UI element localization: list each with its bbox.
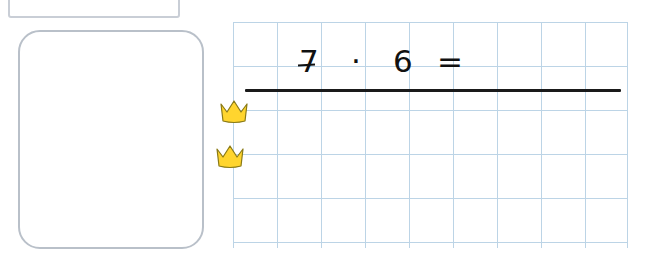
grid-line-horizontal — [233, 22, 628, 23]
grid-line-vertical — [233, 22, 234, 248]
equals-sign: = — [437, 46, 463, 77]
math-problem: 7 · 6 = — [245, 44, 621, 88]
factor-b: 6 — [393, 46, 413, 77]
factor-a: 7 — [299, 46, 319, 77]
answer-area[interactable] — [18, 30, 204, 249]
grid-line-horizontal — [233, 242, 628, 243]
grid-line-vertical — [627, 22, 628, 248]
multiplication-operator: · — [351, 46, 361, 77]
grid-line-horizontal — [233, 198, 628, 199]
grid-line-horizontal — [233, 154, 628, 155]
crown-sticker-icon — [219, 98, 249, 124]
horizontal-rule — [245, 89, 621, 92]
grid-line-horizontal — [233, 110, 628, 111]
crown-sticker-icon — [215, 143, 245, 169]
name-field-box — [8, 0, 180, 18]
